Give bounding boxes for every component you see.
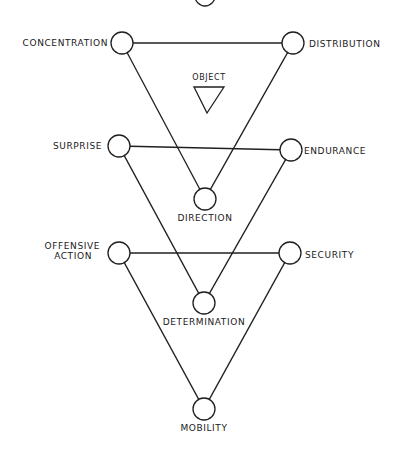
edge-endurance-determination xyxy=(209,160,285,294)
node-concentration xyxy=(111,32,133,54)
node-determination xyxy=(193,292,215,314)
label-surprise: SURPRISE xyxy=(53,141,102,151)
object-label: OBJECT xyxy=(192,73,225,82)
node-security xyxy=(279,242,301,264)
label-offensive-line2: ACTION xyxy=(54,251,92,261)
edge-surprise-determination xyxy=(124,156,199,294)
edge-security-mobility xyxy=(209,263,284,400)
node-offensive xyxy=(108,242,130,264)
edge-surprise-endurance xyxy=(130,146,280,149)
label-determination: DETERMINATION xyxy=(163,317,245,327)
node-distribution xyxy=(282,32,304,54)
label-distribution: DISTRIBUTION xyxy=(309,39,381,49)
node-endurance xyxy=(280,139,302,161)
label-mobility: MOBILITY xyxy=(180,423,227,433)
label-offensive-line1: OFFENSIVE xyxy=(45,241,100,251)
label-security: SECURITY xyxy=(305,250,354,260)
object-triangle-icon xyxy=(194,87,224,113)
label-direction: DIRECTION xyxy=(177,213,232,223)
label-endurance: ENDURANCE xyxy=(304,146,366,156)
edge-offensive-mobility xyxy=(124,263,198,400)
principles-diagram: OBJECT CONCENTRATION DISTRIBUTION SURPRI… xyxy=(0,0,403,456)
label-concentration: CONCENTRATION xyxy=(23,38,108,48)
node-surprise xyxy=(108,135,130,157)
node-top xyxy=(195,0,215,6)
node-mobility xyxy=(193,398,215,420)
edge-concentration-direction xyxy=(127,53,200,190)
node-direction xyxy=(194,188,216,210)
